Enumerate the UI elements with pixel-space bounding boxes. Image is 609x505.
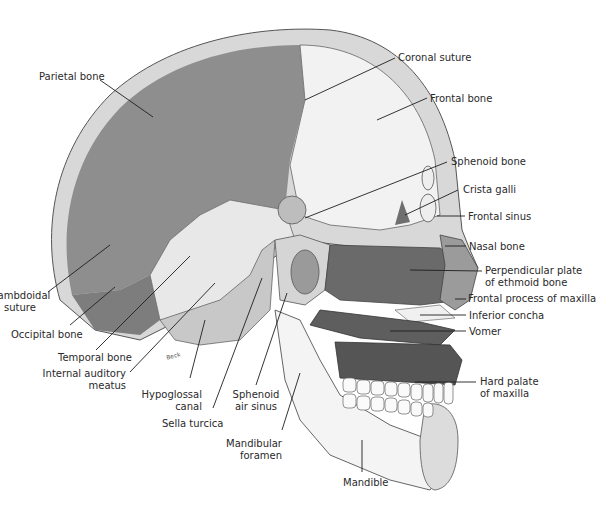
label-lambdoidal-suture: Lambdoidalsuture <box>0 290 48 314</box>
label-nasal-bone: Nasal bone <box>469 241 525 253</box>
label-perpendicular-plate: Perpendicular plateof ethmoid bone <box>485 265 582 289</box>
label-inferior-concha: Inferior concha <box>469 310 544 322</box>
label-sphenoid-air-sinus: Sphenoidair sinus <box>228 389 284 413</box>
label-internal-auditory-meatus: Internal auditorymeatus <box>30 368 126 392</box>
label-coronal-suture: Coronal suture <box>398 52 471 64</box>
label-hypoglossal-canal: Hypoglossalcanal <box>140 389 202 413</box>
skull-diagram: Parietal bone Coronal suture Frontal bon… <box>0 0 609 505</box>
label-temporal-bone: Temporal bone <box>58 352 132 364</box>
label-hard-palate: Hard palateof maxilla <box>480 376 539 400</box>
label-sphenoid-bone: Sphenoid bone <box>451 156 526 168</box>
label-frontal-bone: Frontal bone <box>430 93 492 105</box>
label-parietal-bone: Parietal bone <box>39 71 105 83</box>
frontal-sinus-shape-2 <box>420 194 436 222</box>
label-frontal-process-maxilla: Frontal process of maxilla <box>468 293 596 305</box>
label-frontal-sinus: Frontal sinus <box>468 211 531 223</box>
label-mandible: Mandible <box>343 477 389 489</box>
concha-region <box>395 305 455 322</box>
label-occipital-bone: Occipital bone <box>11 329 83 341</box>
sphenoid-sinus-cavity <box>291 250 319 294</box>
label-vomer: Vomer <box>469 326 501 338</box>
frontal-region <box>290 45 440 230</box>
label-crista-galli: Crista galli <box>463 184 516 196</box>
label-sella-turcica: Sella turcica <box>162 418 223 430</box>
label-mandibular-foramen: Mandibularforamen <box>218 438 282 462</box>
sella-turcica-shape <box>278 196 306 224</box>
